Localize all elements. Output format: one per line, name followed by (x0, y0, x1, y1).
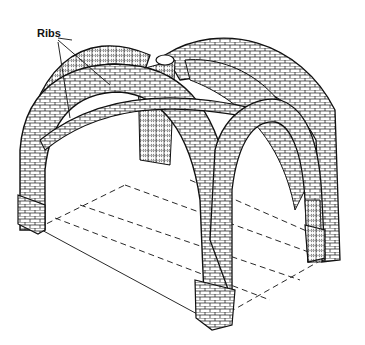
ribs-label: Ribs (37, 27, 61, 39)
vault-drawing (0, 0, 365, 345)
floor-plan (38, 180, 325, 322)
rib-vault-diagram: Ribs (0, 0, 365, 345)
keystone-boss (156, 55, 174, 65)
